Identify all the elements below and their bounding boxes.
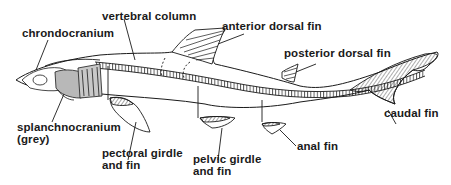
head-skeleton xyxy=(22,64,102,100)
label-anterior-dorsal-fin: anterior dorsal fin xyxy=(222,20,322,32)
leader-splanchnocranium xyxy=(52,94,64,122)
caudal-fin xyxy=(350,53,437,104)
label-posterior-dorsal-fin: posterior dorsal fin xyxy=(284,47,391,59)
leader-posterior-dorsal-fin xyxy=(296,64,316,72)
label-chrondocranium: chrondocranium xyxy=(22,27,114,39)
leader-anal-fin xyxy=(280,130,296,146)
label-vertebral-column: vertebral column xyxy=(102,10,196,22)
label-anal-fin: anal fin xyxy=(297,140,338,152)
label-splanchnocranium-line2: (grey) xyxy=(17,133,50,145)
shark-anatomy-diagram: chrondocranium vertebral column anterior… xyxy=(0,0,451,185)
anterior-dorsal-fin xyxy=(161,28,225,78)
posterior-dorsal-fin xyxy=(282,64,298,82)
label-pelvic-girdle-and-fin-line2: and fin xyxy=(193,165,231,177)
label-pelvic-girdle-and-fin-line1: pelvic girdle xyxy=(193,153,261,165)
label-pectoral-girdle-and-fin-line2: and fin xyxy=(102,159,140,171)
label-pectoral-girdle-and-fin-line1: pectoral girdle xyxy=(102,147,183,159)
label-splanchnocranium-line1: splanchnocranium xyxy=(17,121,121,133)
label-caudal-fin: caudal fin xyxy=(384,107,439,119)
